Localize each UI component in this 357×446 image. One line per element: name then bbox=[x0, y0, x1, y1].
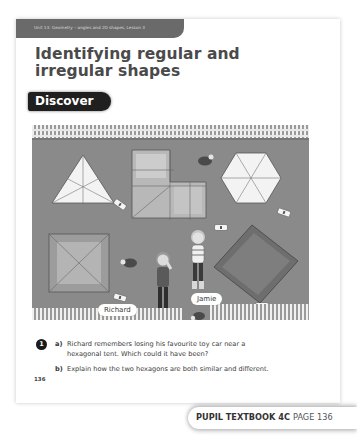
unit-banner-text: Unit 13: Geometry – angles and 2D shapes… bbox=[34, 25, 145, 30]
book-label: PUPIL TEXTBOOK 4C bbox=[196, 412, 290, 422]
page-number: 136 bbox=[34, 376, 45, 382]
car-tag-l-shape bbox=[215, 225, 227, 230]
car-tag-hexagon bbox=[278, 208, 291, 217]
part-b-line-1: Explain how the two hexagons are both si… bbox=[67, 365, 315, 375]
page-title: Identifying regular and irregular shapes bbox=[35, 46, 295, 80]
textbook-page: Unit 13: Geometry – angles and 2D shapes… bbox=[16, 19, 340, 403]
richard-figure bbox=[152, 250, 174, 314]
car-tag-square bbox=[114, 294, 127, 302]
square-tent bbox=[47, 232, 111, 294]
pupil-textbook-tab: PUPIL TEXTBOOK 4C PAGE 136 bbox=[188, 407, 357, 429]
page-label: PAGE 136 bbox=[293, 412, 333, 422]
bird-icon bbox=[120, 255, 138, 269]
question-number-badge: 1 bbox=[36, 339, 47, 350]
car-tag-triangle bbox=[114, 199, 127, 210]
fence-bottom-right bbox=[210, 304, 309, 320]
question-part-a: a) Richard remembers losing his favourit… bbox=[55, 340, 315, 359]
jamie-label: Jamie bbox=[191, 293, 222, 305]
hexagon-tent bbox=[219, 151, 283, 205]
richard-label: Richard bbox=[98, 304, 137, 316]
part-letter-a: a) bbox=[55, 340, 62, 350]
title-line-1: Identifying regular and bbox=[35, 46, 295, 63]
question-part-b: b) Explain how the two hexagons are both… bbox=[55, 365, 315, 375]
triangle-tent bbox=[50, 153, 116, 205]
campsite-illustration: Richard Jamie bbox=[32, 125, 309, 320]
unit-banner: Unit 13: Geometry – angles and 2D shapes… bbox=[16, 19, 184, 38]
bird-icon bbox=[197, 153, 215, 167]
rectangle-tent bbox=[212, 223, 300, 305]
jamie-figure bbox=[187, 228, 209, 294]
fence-top bbox=[32, 125, 309, 140]
discover-label: Discover bbox=[28, 92, 111, 111]
part-letter-b: b) bbox=[55, 365, 63, 375]
title-line-2: irregular shapes bbox=[35, 63, 295, 80]
part-a-line-2: hexagonal tent. Which could it have been… bbox=[67, 350, 315, 360]
part-a-line-1: Richard remembers losing his favourite t… bbox=[67, 340, 315, 350]
discover-text: Discover bbox=[35, 94, 93, 108]
bird-icon bbox=[190, 310, 206, 320]
